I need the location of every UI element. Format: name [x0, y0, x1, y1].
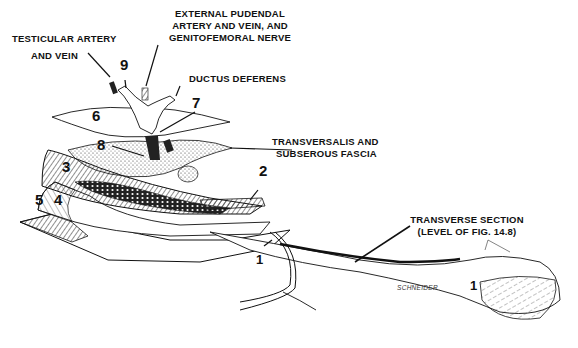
- label-line: (LEVEL OF FIG. 14.8): [402, 226, 532, 238]
- transversalis-fascia-label: TRANSVERSALIS AND SUBSEROUS FASCIA: [272, 136, 379, 160]
- layers-drawing: [0, 0, 578, 348]
- ductus-leader: [176, 86, 180, 96]
- number-6: 6: [92, 108, 100, 123]
- anatomical-illustration: EXTERNAL PUDENDAL ARTERY AND VEIN, AND G…: [0, 0, 578, 348]
- testicular-leader: [88, 53, 110, 77]
- label-line: SUBSEROUS FASCIA: [272, 148, 379, 160]
- ductus-deferens-label: DUCTUS DEFERENS: [189, 73, 286, 85]
- number-2: 2: [259, 163, 267, 178]
- external-pudendal-label: EXTERNAL PUDENDAL ARTERY AND VEIN, AND G…: [150, 8, 310, 44]
- label-line: GENITOFEMORAL NERVE: [150, 32, 310, 44]
- label-line: ARTERY AND VEIN, AND: [150, 20, 310, 32]
- number-3: 3: [62, 159, 70, 174]
- number-1-right: 1: [470, 278, 477, 293]
- transverse-section-label: TRANSVERSE SECTION (LEVEL OF FIG. 14.8): [402, 214, 532, 238]
- testicular-vein-label: AND VEIN: [31, 50, 78, 62]
- number-9: 9: [120, 57, 128, 72]
- penis-body: [210, 232, 560, 319]
- number-7: 7: [192, 95, 200, 110]
- pudendal-leader: [146, 45, 158, 86]
- label-line: TRANSVERSE SECTION: [402, 214, 532, 226]
- layer-5-skin: [20, 212, 290, 262]
- testicular-artery-label: TESTICULAR ARTERY: [12, 33, 117, 45]
- artist-signature: SCHNEIDER: [397, 284, 438, 291]
- label-line: TRANSVERSALIS AND: [272, 136, 379, 148]
- number-4: 4: [54, 192, 62, 207]
- number-8: 8: [97, 137, 105, 152]
- label-line: EXTERNAL PUDENDAL: [150, 8, 310, 20]
- number-1-left: 1: [256, 252, 263, 267]
- number-5: 5: [35, 192, 43, 207]
